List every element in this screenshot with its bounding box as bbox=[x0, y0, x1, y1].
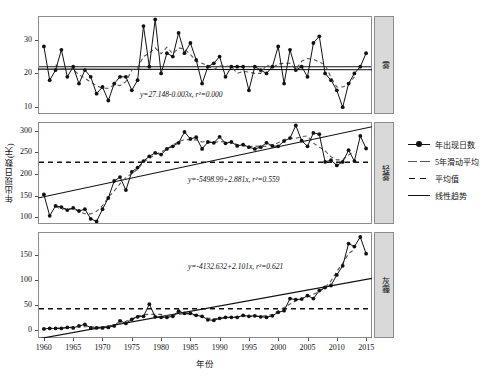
y-tick-label: 100 bbox=[6, 275, 32, 284]
data-point bbox=[235, 144, 239, 148]
data-point bbox=[147, 302, 151, 306]
figure-root: 年出现日数(天) 雾102030y=27.148-0.003x, r²=0.00… bbox=[0, 0, 503, 382]
trend-line bbox=[38, 69, 372, 70]
data-point bbox=[300, 297, 304, 301]
data-point bbox=[60, 327, 64, 331]
data-point bbox=[317, 289, 321, 293]
data-point bbox=[124, 188, 128, 192]
data-point bbox=[200, 147, 204, 151]
data-point bbox=[183, 51, 187, 55]
data-point bbox=[364, 51, 368, 55]
data-point bbox=[48, 214, 52, 218]
data-point bbox=[294, 124, 298, 128]
x-tick-mark bbox=[73, 338, 74, 341]
data-point bbox=[65, 208, 69, 212]
data-point bbox=[253, 147, 257, 151]
data-point bbox=[306, 294, 310, 298]
data-point bbox=[42, 327, 46, 331]
data-point bbox=[171, 144, 175, 148]
panel-strip-label-3: 灰霾 bbox=[374, 232, 394, 338]
data-point bbox=[101, 85, 105, 89]
data-point bbox=[71, 206, 75, 210]
data-point bbox=[42, 193, 46, 197]
data-point bbox=[147, 65, 151, 69]
y-tick-label: 0 bbox=[6, 325, 32, 334]
data-point bbox=[101, 207, 105, 211]
data-point bbox=[288, 48, 292, 52]
x-tick-mark bbox=[102, 338, 103, 341]
data-point bbox=[276, 45, 280, 49]
data-point bbox=[118, 319, 122, 323]
data-point bbox=[300, 65, 304, 69]
panel-strip-label-1: 雾 bbox=[374, 16, 394, 114]
y-tick-label: 20 bbox=[6, 68, 32, 77]
data-point bbox=[212, 318, 216, 322]
data-point bbox=[83, 207, 87, 211]
data-point bbox=[159, 72, 163, 76]
x-tick-mark bbox=[278, 338, 279, 341]
data-point bbox=[300, 139, 304, 143]
data-point bbox=[112, 82, 116, 86]
data-point bbox=[124, 322, 128, 326]
data-point bbox=[89, 75, 93, 79]
data-point bbox=[177, 309, 181, 313]
data-point bbox=[206, 65, 210, 69]
data-point bbox=[200, 82, 204, 86]
data-point bbox=[77, 209, 81, 213]
data-point bbox=[54, 327, 58, 331]
data-point bbox=[358, 235, 362, 239]
data-point bbox=[95, 326, 99, 330]
data-point bbox=[241, 143, 245, 147]
legend-label: 线性趋势 bbox=[435, 190, 467, 201]
data-point bbox=[95, 220, 99, 224]
data-point bbox=[323, 72, 327, 76]
data-point bbox=[153, 18, 157, 22]
legend-key-icon bbox=[408, 190, 430, 202]
y-tick-label: 50 bbox=[6, 300, 32, 309]
data-point bbox=[288, 297, 292, 301]
data-point bbox=[194, 313, 198, 317]
data-point bbox=[265, 141, 269, 145]
x-tick-mark bbox=[44, 338, 45, 341]
data-point bbox=[317, 132, 321, 136]
data-point bbox=[306, 144, 310, 148]
regression-equation-2: y=-5498.99+2.881x, r²=0.559 bbox=[188, 175, 279, 184]
x-tick-mark bbox=[366, 338, 367, 341]
data-point bbox=[60, 205, 64, 209]
data-point bbox=[247, 145, 251, 149]
x-tick-label: 1960 bbox=[29, 343, 59, 352]
data-point bbox=[364, 252, 368, 256]
data-point bbox=[153, 315, 157, 319]
data-point bbox=[218, 55, 222, 59]
data-point bbox=[106, 99, 110, 103]
strip-label-text: 灰霾 bbox=[380, 277, 388, 293]
data-point bbox=[306, 75, 310, 79]
data-point bbox=[153, 151, 157, 155]
observed-series-line bbox=[44, 126, 366, 222]
legend-label: 5年滑动平均 bbox=[435, 156, 479, 167]
y-tick-label: 30 bbox=[6, 35, 32, 44]
data-point bbox=[189, 137, 193, 141]
x-tick-label: 1995 bbox=[234, 343, 264, 352]
data-point bbox=[54, 68, 58, 72]
data-point bbox=[276, 310, 280, 314]
legend-dash bbox=[409, 178, 415, 180]
data-point bbox=[136, 78, 140, 82]
data-point bbox=[65, 326, 69, 330]
data-point bbox=[253, 65, 257, 69]
y-tick-label: 100 bbox=[6, 212, 32, 221]
legend-label: 平均值 bbox=[435, 173, 459, 184]
panel-series-2 bbox=[38, 122, 372, 224]
data-point bbox=[212, 61, 216, 65]
data-point bbox=[288, 136, 292, 140]
legend-dot bbox=[416, 141, 422, 147]
data-point bbox=[282, 82, 286, 86]
data-point bbox=[142, 24, 146, 28]
data-point bbox=[194, 58, 198, 62]
data-point bbox=[60, 48, 64, 52]
x-tick-label: 1970 bbox=[87, 343, 117, 352]
data-point bbox=[353, 245, 357, 249]
x-tick-label: 2015 bbox=[351, 343, 381, 352]
data-point bbox=[294, 68, 298, 72]
data-point bbox=[95, 92, 99, 96]
